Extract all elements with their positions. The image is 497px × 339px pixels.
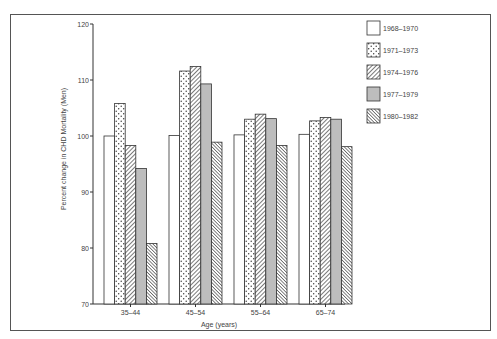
bar-chart: 708090100110120Percent change in CHD Mor… xyxy=(0,0,497,339)
x-axis: 35–4445–5455–6465–74Age (years) xyxy=(93,304,345,329)
bar xyxy=(201,84,212,304)
bar xyxy=(125,146,136,304)
bar xyxy=(136,168,147,304)
bar xyxy=(169,135,180,304)
bar xyxy=(276,146,287,304)
x-tick-label: 35–44 xyxy=(121,309,141,316)
y-tick-label: 70 xyxy=(81,301,89,308)
legend-swatch xyxy=(367,87,380,101)
legend-swatch xyxy=(367,43,380,57)
y-axis: 708090100110120Percent change in CHD Mor… xyxy=(60,21,93,308)
bar xyxy=(310,121,321,304)
bar xyxy=(115,104,126,304)
bar xyxy=(266,119,277,304)
bar xyxy=(234,135,245,304)
y-tick-label: 110 xyxy=(78,77,89,84)
bar xyxy=(104,136,115,304)
legend-label: 1974–1976 xyxy=(383,69,418,76)
bar xyxy=(211,142,222,304)
legend-swatch xyxy=(367,21,380,35)
bar xyxy=(245,119,256,304)
y-axis-title: Percent change in CHD Mortality (Men) xyxy=(60,88,68,210)
bar xyxy=(320,118,331,304)
x-tick-label: 65–74 xyxy=(316,309,336,316)
bar xyxy=(180,71,191,304)
bar xyxy=(341,147,352,304)
y-tick-label: 90 xyxy=(81,189,89,196)
bar xyxy=(190,67,201,304)
legend-label: 1980–1982 xyxy=(383,113,418,120)
y-tick-label: 120 xyxy=(77,21,89,28)
legend-swatch xyxy=(367,109,380,123)
legend-label: 1971–1973 xyxy=(383,47,418,54)
x-tick-label: 45–54 xyxy=(186,309,206,316)
legend-label: 1968–1970 xyxy=(383,25,418,32)
bars xyxy=(104,67,352,304)
bar xyxy=(299,134,310,304)
x-tick-label: 55–64 xyxy=(251,309,271,316)
legend-label: 1977–1979 xyxy=(383,91,418,98)
y-tick-label: 100 xyxy=(77,133,89,140)
y-tick-label: 80 xyxy=(81,245,89,252)
bar xyxy=(255,114,266,304)
bar xyxy=(331,119,342,304)
bar xyxy=(146,244,157,304)
x-axis-title: Age (years) xyxy=(201,321,237,329)
legend-swatch xyxy=(367,65,380,79)
legend: 1968–19701971–19731974–19761977–19791980… xyxy=(367,21,418,123)
